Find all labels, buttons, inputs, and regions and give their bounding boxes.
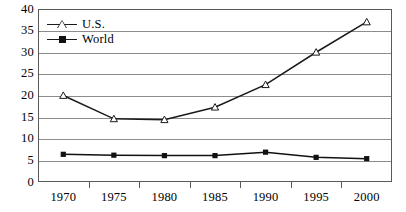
- filled-square-marker-icon: [47, 33, 77, 46]
- legend-label-us: U.S.: [82, 18, 105, 31]
- y-axis: 0510152025303540: [0, 0, 34, 212]
- y-tick-label: 15: [0, 111, 34, 123]
- data-point-open-triangle: [60, 92, 67, 98]
- x-tick-label: 1980: [152, 191, 178, 204]
- data-point-filled-square: [212, 153, 217, 158]
- data-point-filled-square: [111, 153, 116, 158]
- y-tick-label: 35: [0, 24, 34, 36]
- x-tick-label: 1995: [303, 191, 329, 204]
- data-point-filled-square: [162, 153, 167, 158]
- x-tick: [190, 182, 191, 188]
- data-point-open-triangle: [363, 18, 370, 24]
- x-tick: [291, 182, 292, 188]
- x-tick: [89, 182, 90, 188]
- legend-item-us: U.S.: [47, 17, 133, 32]
- y-tick-label: 25: [0, 67, 34, 79]
- legend-item-world: World: [47, 32, 133, 47]
- y-tick-label: 10: [0, 132, 34, 144]
- x-axis: 1970197519801985199019952000: [38, 182, 392, 212]
- y-tick-label: 30: [0, 46, 34, 58]
- y-tick-label: 40: [0, 3, 34, 15]
- line-chart: 0510152025303540 19701975198019851990199…: [0, 0, 406, 212]
- legend-label-world: World: [82, 33, 114, 46]
- x-tick-label: 1990: [253, 191, 279, 204]
- x-tick-label: 2000: [354, 191, 380, 204]
- x-tick: [240, 182, 241, 188]
- chart-legend: U.S. World: [47, 17, 133, 47]
- data-point-filled-square: [263, 150, 268, 155]
- y-tick-label: 0: [0, 176, 34, 188]
- data-point-filled-square: [314, 155, 319, 160]
- x-tick-label: 1970: [50, 191, 76, 204]
- y-tick-label: 5: [0, 154, 34, 166]
- x-tick-label: 1985: [202, 191, 228, 204]
- data-point-open-triangle: [262, 81, 269, 87]
- data-point-filled-square: [61, 152, 66, 157]
- x-tick: [139, 182, 140, 188]
- x-tick-label: 1975: [101, 191, 127, 204]
- x-tick: [341, 182, 342, 188]
- data-point-filled-square: [364, 156, 369, 161]
- y-tick-label: 20: [0, 89, 34, 101]
- data-point-open-triangle: [313, 49, 320, 55]
- open-triangle-marker-icon: [47, 18, 77, 31]
